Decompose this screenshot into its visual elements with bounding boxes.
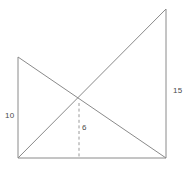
- geometry-figure: 10 15 6: [0, 0, 189, 178]
- left-side-length-label: 10: [5, 112, 14, 120]
- middle-height-length-label: 6: [82, 124, 87, 132]
- geometry-figure-svg: [0, 0, 189, 178]
- diagonal-bottom-left-to-top-right: [18, 9, 166, 158]
- right-side-length-label: 15: [173, 87, 182, 95]
- diagonal-top-left-to-bottom-right: [18, 57, 166, 158]
